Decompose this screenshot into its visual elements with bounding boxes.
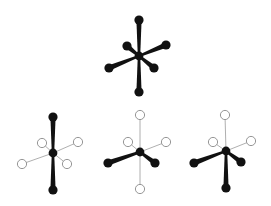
bond-filled (136, 56, 141, 92)
ligand-atom-open (208, 137, 217, 146)
central-atom (222, 147, 231, 156)
molecule-fac-triple (189, 110, 255, 192)
ligand-atom-filled (189, 158, 198, 167)
ligand-atom-filled (48, 112, 57, 121)
bond-filled (50, 153, 55, 190)
central-atom (136, 148, 145, 157)
ligand-atom-filled (134, 15, 143, 24)
ligand-atom-open (161, 137, 170, 146)
bond-filled (50, 117, 55, 153)
ligand-atom-filled (221, 183, 230, 192)
octahedral-diagram (0, 0, 271, 206)
ligand-atom-filled (122, 41, 131, 50)
ligand-atom-open (17, 159, 26, 168)
ligand-atom-filled (134, 87, 143, 96)
bond-filled (223, 151, 228, 188)
molecule-axial-pair (17, 112, 82, 194)
ligand-atom-filled (150, 158, 159, 167)
ligand-atom-filled (104, 63, 113, 72)
central-atom (135, 52, 144, 61)
ligand-atom-open (123, 137, 132, 146)
molecule-cis-equatorial-pair (103, 110, 170, 193)
ligand-atom-open (135, 184, 144, 193)
ligand-atom-filled (149, 63, 158, 72)
ligand-atom-open (135, 110, 144, 119)
bond-filled (136, 20, 141, 56)
molecule-full-octahedron (104, 15, 170, 96)
ligand-atom-filled (48, 185, 57, 194)
ligand-atom-filled (236, 157, 245, 166)
ligand-atom-open (220, 110, 229, 119)
ligand-atom-filled (103, 158, 112, 167)
central-atom (49, 149, 58, 158)
ligand-atom-filled (161, 40, 170, 49)
ligand-atom-open (62, 159, 71, 168)
ligand-atom-open (37, 138, 46, 147)
ligand-atom-open (246, 136, 255, 145)
ligand-atom-open (73, 137, 82, 146)
bond-open (225, 115, 226, 151)
